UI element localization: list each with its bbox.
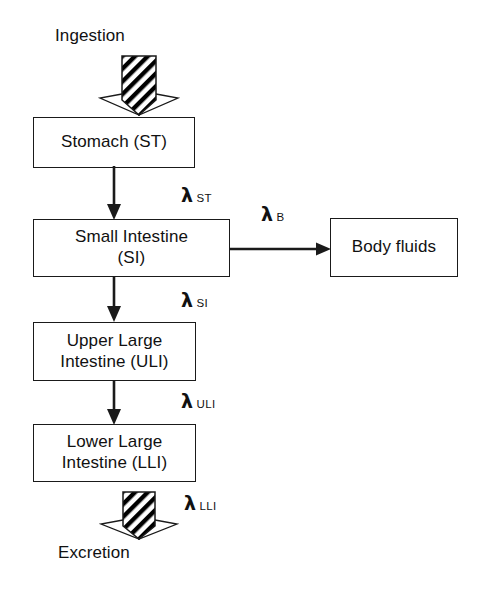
lambda-subscript-b: B [277, 212, 285, 224]
node-upper-large-intestine[interactable]: Upper Large Intestine (ULI) [33, 322, 196, 381]
rate-label-lambda-st: λ ST [181, 186, 212, 205]
lambda-subscript-uli: ULI [197, 399, 216, 411]
rate-label-lambda-lli: λ LLI [184, 494, 217, 513]
ingestion-label: Ingestion [55, 26, 125, 46]
arrow-uli-to-lli [100, 380, 130, 428]
node-lower-large-intestine-label: Lower Large Intestine (LLI) [58, 432, 171, 473]
excretion-label: Excretion [58, 543, 130, 563]
lambda-subscript-lli: LLI [200, 501, 217, 513]
lambda-subscript-si: SI [197, 298, 209, 310]
arrow-small-intestine-to-uli [100, 276, 130, 324]
node-upper-large-intestine-label: Upper Large Intestine (ULI) [56, 331, 172, 372]
node-body-fluids[interactable]: Body fluids [330, 218, 458, 277]
lambda-subscript-st: ST [197, 193, 213, 205]
ingestion-block-arrow-icon [96, 54, 182, 118]
rate-label-lambda-b: λ B [261, 205, 285, 224]
arrow-small-intestine-to-body-fluids [230, 238, 334, 260]
lambda-symbol-uli: λ [181, 392, 193, 411]
node-lower-large-intestine[interactable]: Lower Large Intestine (LLI) [33, 424, 196, 482]
lambda-symbol-lli: λ [184, 494, 196, 513]
diagram-canvas: Ingestion Stomach (ST) λ ST Small Intest… [0, 0, 479, 592]
arrow-stomach-to-small-intestine [100, 166, 130, 222]
node-body-fluids-label: Body fluids [348, 237, 440, 258]
node-stomach-label: Stomach (ST) [57, 132, 171, 153]
rate-label-lambda-uli: λ ULI [181, 392, 216, 411]
lambda-symbol-b: λ [261, 205, 273, 224]
node-small-intestine-label: Small Intestine (SI) [71, 227, 192, 268]
excretion-block-arrow-icon [96, 490, 182, 542]
lambda-symbol-st: λ [181, 186, 193, 205]
node-stomach[interactable]: Stomach (ST) [33, 117, 195, 168]
node-small-intestine[interactable]: Small Intestine (SI) [33, 219, 230, 277]
rate-label-lambda-si: λ SI [181, 291, 208, 310]
lambda-symbol-si: λ [181, 291, 193, 310]
